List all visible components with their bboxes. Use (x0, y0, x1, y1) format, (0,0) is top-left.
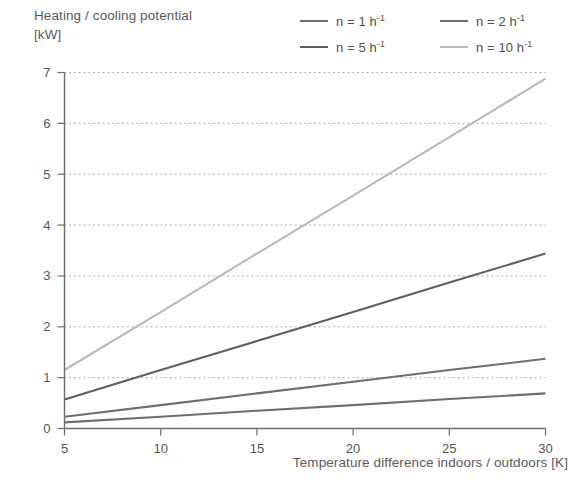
y-tick-label-0: 0 (43, 421, 50, 436)
axis-lines (65, 73, 546, 429)
x-tick-label-5: 5 (61, 441, 68, 456)
y-tick-label-6: 6 (43, 116, 50, 131)
plot-area: 01234567 51015202530 (0, 0, 588, 482)
x-axis-title: Temperature difference indoors / outdoor… (0, 455, 568, 470)
x-axis-tick-labels: 51015202530 (61, 441, 553, 456)
y-tick-label-4: 4 (43, 218, 50, 233)
series-lines (65, 79, 546, 423)
y-tick-label-7: 7 (43, 65, 50, 80)
y-tick-label-3: 3 (43, 268, 50, 283)
x-tick-label-25: 25 (442, 441, 456, 456)
x-axis-ticks (65, 429, 546, 436)
x-tick-label-10: 10 (153, 441, 167, 456)
y-tick-label-2: 2 (43, 319, 50, 334)
y-axis-tick-labels: 01234567 (43, 65, 50, 436)
x-tick-label-15: 15 (250, 441, 264, 456)
x-tick-label-20: 20 (346, 441, 360, 456)
y-axis-ticks (58, 73, 65, 429)
y-tick-label-5: 5 (43, 167, 50, 182)
x-tick-label-30: 30 (538, 441, 552, 456)
plot-svg: 01234567 51015202530 (0, 0, 588, 482)
chart-figure: Heating / cooling potential[kW] n = 1 h-… (0, 0, 588, 482)
y-tick-label-1: 1 (43, 370, 50, 385)
